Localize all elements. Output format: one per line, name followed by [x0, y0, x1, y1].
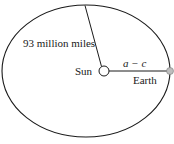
- earth-label: Earth: [133, 74, 157, 86]
- semi-major-line: [85, 6, 102, 67]
- orbit-diagram: 93 million miles Sun a − c Earth: [0, 0, 174, 144]
- perihelion-label: a − c: [123, 57, 146, 69]
- distance-label: 93 million miles: [23, 37, 95, 49]
- sun-label: Sun: [75, 65, 93, 77]
- earth-circle: [167, 68, 174, 75]
- sun-circle: [99, 66, 109, 76]
